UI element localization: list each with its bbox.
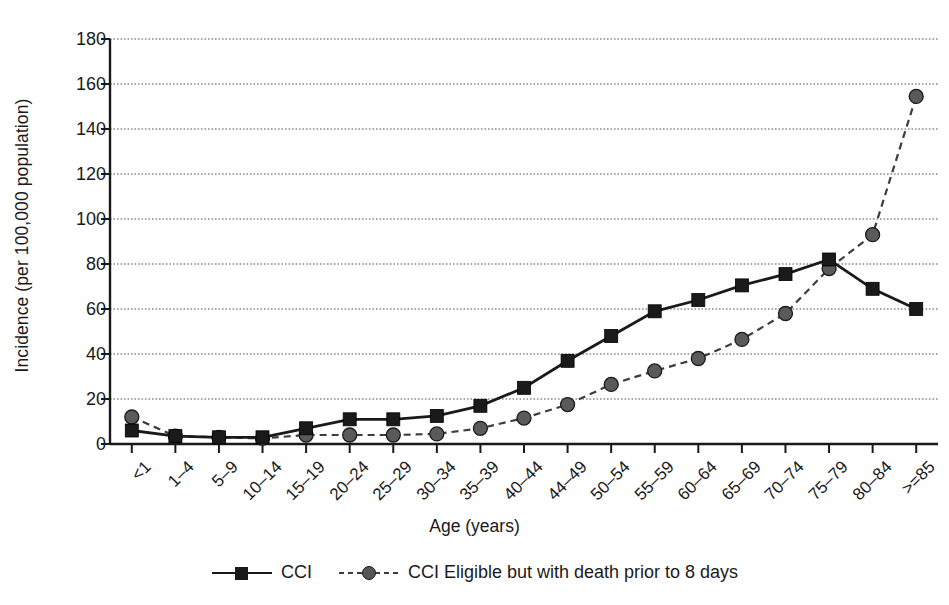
x-axis-title: Age (years) (0, 516, 949, 537)
legend-item-cci: CCI (211, 562, 312, 583)
chart-legend: CCI CCI Eligible but with death prior to… (0, 562, 949, 583)
legend-marker-solid-square-icon (211, 565, 273, 581)
x-axis-tick-labels: <11–45–910–1415–1920–2425–2930–3435–3940… (0, 0, 949, 605)
legend-label-cci: CCI (281, 562, 312, 583)
legend-item-cci-eligible: CCI Eligible but with death prior to 8 d… (338, 562, 738, 583)
legend-marker-dashed-circle-icon (338, 565, 400, 581)
chart-figure: Incidence (per 100,000 population) 02040… (0, 0, 949, 605)
legend-label-cci-eligible: CCI Eligible but with death prior to 8 d… (408, 562, 738, 583)
